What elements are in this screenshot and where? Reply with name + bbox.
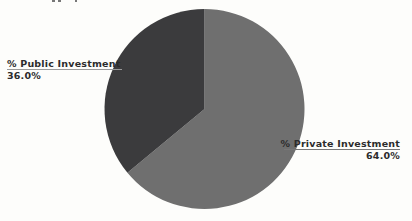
label-public-name: % Public Investment <box>7 58 120 69</box>
label-private-value: 64.0% <box>366 150 400 161</box>
label-public-value: 36.0% <box>7 70 41 81</box>
pie-chart <box>0 0 412 221</box>
label-private-name: % Private Investment <box>281 138 400 149</box>
